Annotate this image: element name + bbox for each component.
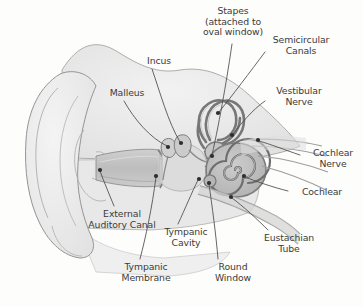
label-incus: Incus: [136, 56, 182, 67]
dot-tympanic-cavity: [197, 177, 201, 181]
label-eustachian-tube: Eustachian Tube: [253, 233, 325, 254]
page-bleed-through-text: [0, 275, 363, 305]
label-cochlear-nerve: Cochlear Nerve: [303, 148, 363, 169]
dot-external-auditory-canal: [98, 168, 102, 172]
dot-malleus: [166, 145, 170, 149]
dot-tympanic-membrane: [154, 174, 158, 178]
dot-round-window: [207, 181, 211, 185]
label-malleus: Malleus: [100, 88, 154, 99]
label-stapes: Stapes (attached to oval window): [187, 6, 279, 38]
label-tympanic-cavity: Tympanic Cavity: [155, 227, 217, 248]
dot-cochlear-nerve: [256, 138, 260, 142]
dot-stapes: [210, 154, 214, 158]
dot-vestibular-nerve: [230, 133, 234, 137]
external-auditory-canal: [96, 149, 160, 187]
dot-cochlear: [242, 174, 246, 178]
ear-anatomy-figure: Stapes (attached to oval window)Semicirc…: [0, 0, 363, 307]
dot-semicircular-canals: [216, 111, 220, 115]
label-semicircular-canals: Semicircular Canals: [258, 35, 344, 56]
dot-eustachian-tube: [229, 195, 233, 199]
label-cochlear: Cochlear: [291, 187, 353, 198]
label-vestibular-nerve: Vestibular Nerve: [262, 86, 336, 107]
dot-incus: [179, 141, 183, 145]
